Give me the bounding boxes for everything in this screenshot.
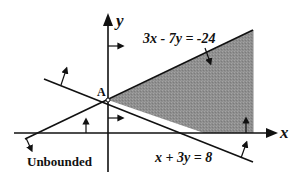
diagram: y x 3x - 7y = -24 x + 3y = 8 A Unbounded: [0, 0, 297, 181]
x-axis-arrow-icon: [266, 128, 278, 138]
unbounded-label: Unbounded: [27, 155, 92, 168]
direction-arrow-icon: [241, 144, 246, 158]
constraint-label-2: x + 3y = 8: [155, 151, 212, 165]
direction-arrow-icon: [26, 138, 31, 149]
y-axis-label: y: [116, 12, 124, 29]
vertex-a: [106, 98, 110, 102]
x-axis-label: x: [280, 124, 289, 141]
y-axis-arrow-icon: [103, 13, 113, 26]
direction-arrow-icon: [61, 70, 66, 85]
constraint-label-1: 3x - 7y = -24: [143, 32, 216, 46]
point-label-a: A: [97, 86, 106, 98]
